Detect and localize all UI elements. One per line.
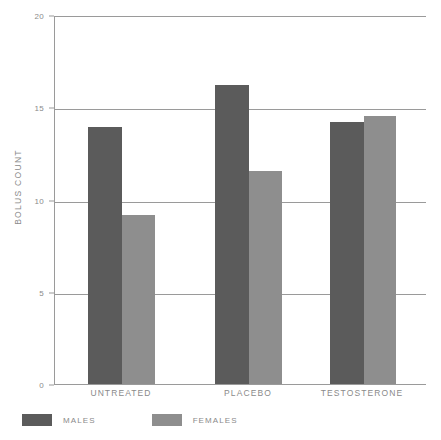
y-tick-label-10: 10: [35, 196, 45, 205]
bar-placebo-females[interactable]: [249, 171, 282, 384]
legend-item-females[interactable]: FEMALES: [152, 414, 238, 426]
bar-group-untreated: [88, 17, 155, 384]
y-tick-label-20: 20: [35, 12, 45, 21]
legend-swatch-males-icon: [22, 414, 52, 426]
y-tick-label-15: 15: [35, 104, 45, 113]
y-tick-label-0: 0: [39, 381, 44, 390]
plot-area: [54, 16, 426, 385]
bar-testosterone-males[interactable]: [330, 122, 364, 384]
chart-legend: MALES FEMALES: [22, 411, 238, 429]
bar-untreated-females[interactable]: [122, 215, 155, 384]
bar-group-testosterone: [330, 17, 396, 384]
legend-label-females: FEMALES: [193, 416, 238, 425]
legend-item-males[interactable]: MALES: [22, 414, 96, 426]
y-tick-label-5: 5: [39, 289, 44, 298]
y-axis-title: BOLUS COUNT: [13, 117, 23, 257]
bar-testosterone-females[interactable]: [364, 116, 396, 384]
x-axis: UNTREATED PLACEBO TESTOSTERONE: [54, 388, 426, 404]
bar-untreated-males[interactable]: [88, 127, 122, 384]
legend-swatch-females-icon: [152, 414, 182, 426]
x-tick-label-untreated: UNTREATED: [90, 388, 151, 398]
bar-chart-figure: 20 15 10 5 0 BOLUS COUNT U: [0, 0, 441, 440]
x-tick-label-testosterone: TESTOSTERONE: [321, 388, 403, 398]
y-axis: 20 15 10 5 0: [0, 0, 54, 440]
x-tick-label-placebo: PLACEBO: [224, 388, 272, 398]
legend-label-males: MALES: [63, 416, 96, 425]
bar-group-placebo: [215, 17, 282, 384]
bar-placebo-males[interactable]: [215, 85, 249, 384]
